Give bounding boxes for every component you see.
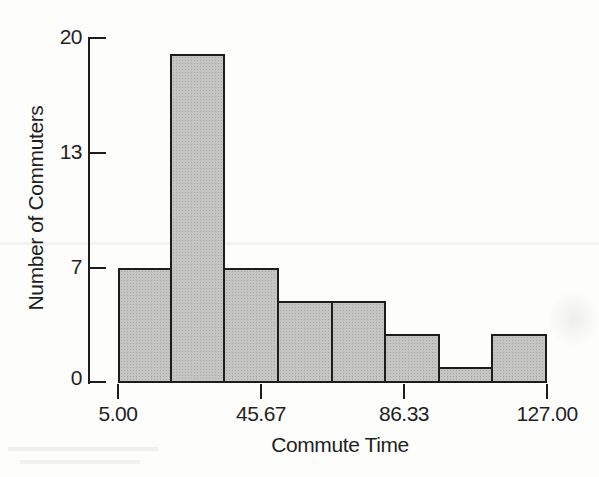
- histogram-bar: [118, 268, 172, 383]
- histogram-figure: Number of Commuters Commute Time 0713205…: [0, 0, 599, 477]
- scan-artifact: [548, 290, 599, 348]
- x-axis-tick: [403, 384, 405, 399]
- y-tick-label: 7: [32, 256, 82, 278]
- histogram-bar: [170, 54, 225, 383]
- y-tick-label: 20: [32, 26, 82, 48]
- histogram-bar: [277, 301, 333, 383]
- scan-artifact: [8, 447, 158, 451]
- plot-area: [118, 38, 547, 383]
- histogram-bar: [223, 268, 279, 383]
- histogram-bar: [384, 334, 440, 383]
- x-tick-label: 127.00: [503, 403, 591, 425]
- x-axis-tick: [546, 384, 548, 399]
- y-axis-tick: [90, 37, 106, 39]
- x-tick-label: 86.33: [360, 403, 448, 425]
- x-axis-title: Commute Time: [240, 433, 440, 457]
- histogram-bar: [491, 334, 547, 383]
- x-tick-label: 45.67: [217, 403, 305, 425]
- scan-artifact: [20, 460, 140, 464]
- x-axis-tick: [117, 384, 119, 399]
- y-axis-tick: [90, 381, 106, 383]
- histogram-bar: [331, 301, 386, 383]
- y-axis-tick: [90, 267, 106, 269]
- y-axis-title: Number of Commuters: [24, 106, 48, 311]
- y-axis-line: [88, 37, 90, 384]
- x-tick-label: 5.00: [74, 403, 162, 425]
- histogram-bar: [438, 367, 493, 383]
- y-tick-label: 0: [32, 367, 82, 389]
- y-tick-label: 13: [32, 141, 82, 163]
- y-axis-tick: [90, 152, 106, 154]
- x-axis-tick: [260, 384, 262, 399]
